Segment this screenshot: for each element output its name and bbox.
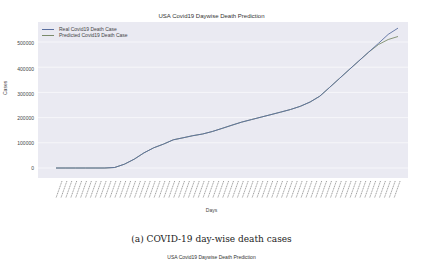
predicted-death-line — [56, 37, 398, 169]
legend-label-predicted: Predicted Covid19 Death Case — [59, 32, 128, 38]
x-tick-labels — [52, 180, 402, 202]
real-death-line — [56, 28, 398, 168]
line-chart — [0, 0, 423, 267]
figure-caption: (a) COVID-19 day-wise death cases — [0, 234, 423, 244]
legend-swatch-real — [42, 29, 54, 30]
legend: Real Covid19 Death Case Predicted Covid1… — [42, 26, 128, 38]
legend-item-predicted: Predicted Covid19 Death Case — [42, 32, 128, 38]
x-axis-label: Days — [0, 207, 423, 213]
legend-swatch-predicted — [42, 35, 54, 36]
next-chart-title: USA Covid19 Daywise Death Prediction — [0, 254, 423, 260]
